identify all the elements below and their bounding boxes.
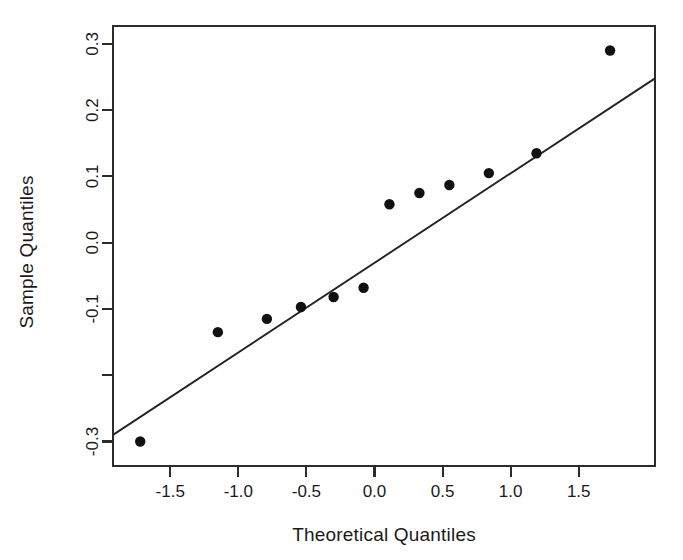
scatter-point (296, 302, 306, 312)
y-tick-label: -0.3 (84, 427, 103, 456)
x-tick-label: 1.0 (499, 482, 523, 501)
y-tick-label: 0.2 (84, 98, 103, 122)
y-tick-label: 0.3 (84, 32, 103, 56)
x-tick-label: 0.5 (431, 482, 455, 501)
scatter-point (328, 292, 338, 302)
x-tick-label: -1.5 (156, 482, 185, 501)
scatter-point (135, 436, 145, 446)
x-tick-label: 1.5 (567, 482, 591, 501)
y-tick-label: 0.1 (84, 165, 103, 189)
scatter-point (213, 327, 223, 337)
qq-plot-svg: 0.30.20.10.0-0.1-0.3 -1.5-1.0-0.50.00.51… (0, 0, 683, 560)
scatter-point (605, 45, 615, 55)
x-tick-label: 0.0 (363, 482, 387, 501)
y-axis-title: Sample Quantiles (16, 175, 37, 328)
figure-background (0, 0, 683, 560)
scatter-point (444, 180, 454, 190)
scatter-point (531, 148, 541, 158)
y-tick-label: 0.0 (84, 231, 103, 255)
x-tick-label: -1.0 (224, 482, 253, 501)
qq-plot-figure: 0.30.20.10.0-0.1-0.3 -1.5-1.0-0.50.00.51… (0, 0, 683, 560)
x-tick-label: -0.5 (292, 482, 321, 501)
x-axis-title: Theoretical Quantiles (292, 524, 476, 545)
scatter-point (484, 168, 494, 178)
scatter-point (262, 314, 272, 324)
scatter-point (384, 199, 394, 209)
scatter-point (358, 283, 368, 293)
scatter-point (414, 188, 424, 198)
y-tick-label: -0.1 (84, 294, 103, 323)
